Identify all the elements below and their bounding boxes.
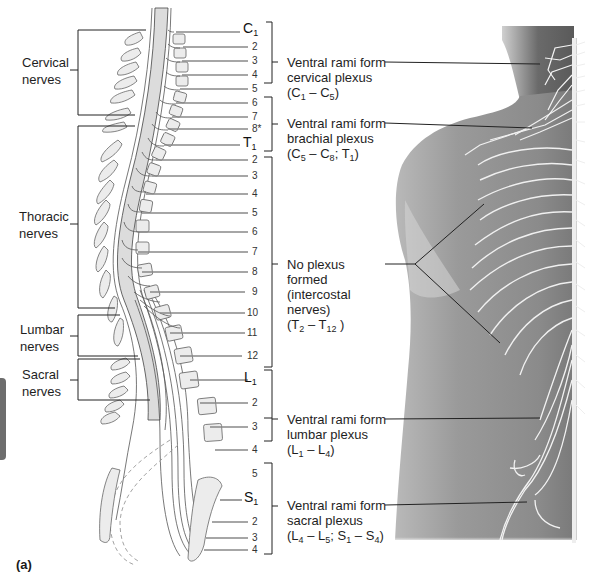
level-l1: L1 <box>244 371 257 383</box>
annotation-lumbar-plexus: Ventral rami form lumbar plexus (L1 – L4… <box>287 412 386 457</box>
right-plexus-brackets <box>264 22 278 554</box>
annotation-sacral-plexus: Ventral rami form sacral plexus (L4 – L5… <box>287 498 386 543</box>
level-t3: 3 <box>252 170 258 182</box>
level-c7: 7 <box>252 111 258 123</box>
torso-back-view <box>390 26 585 543</box>
level-t9: 9 <box>252 286 258 298</box>
level-t2: 2 <box>252 154 258 166</box>
level-t12: 12 <box>247 350 258 362</box>
level-t1: T1 <box>243 136 257 148</box>
spinal-root-stubs <box>576 42 585 414</box>
level-c1: C1 <box>243 22 258 34</box>
label-cervical-nerves: Cervicalnerves <box>22 54 69 88</box>
left-group-brackets <box>70 30 150 400</box>
level-t8: 8 <box>252 266 258 278</box>
spinal-nerves-figure: Cervicalnerves Thoracicnerves Lumbarnerv… <box>0 0 607 582</box>
annotation-cervical-plexus: Ventral rami form cervical plexus (C1 – … <box>287 55 386 100</box>
level-l2: 2 <box>252 397 258 409</box>
level-t7: 7 <box>252 246 258 258</box>
level-c5: 5 <box>252 83 258 95</box>
label-thoracic-nerves: Thoracicnerves <box>19 208 69 242</box>
annotation-no-plexus: No plexus formed (intercostal nerves) (T… <box>287 257 351 332</box>
level-t6: 6 <box>252 226 258 238</box>
level-c2: 2 <box>252 41 258 53</box>
label-lumbar-nerves: Lumbarnerves <box>20 321 64 355</box>
level-s1: S1 <box>244 491 258 503</box>
level-s4: 4 <box>252 544 258 556</box>
level-s3: 3 <box>252 532 258 544</box>
level-t10: 10 <box>247 307 258 319</box>
level-s2: 2 <box>252 516 258 528</box>
level-c3: 3 <box>252 55 258 67</box>
level-t4: 4 <box>252 188 258 200</box>
level-c8: 8* <box>252 123 261 135</box>
label-sacral-nerves: Sacralnerves <box>22 366 61 400</box>
page-edge-tab <box>0 378 6 460</box>
level-l4: 4 <box>252 444 258 456</box>
level-t5: 5 <box>252 207 258 219</box>
level-l5: 5 <box>252 468 258 480</box>
level-c4: 4 <box>252 69 258 81</box>
panel-label: (a) <box>16 557 32 572</box>
annotation-brachial-plexus: Ventral rami form brachial plexus (C5 – … <box>287 116 386 161</box>
level-c6: 6 <box>252 97 258 109</box>
level-t11: 11 <box>247 327 257 339</box>
level-l3: 3 <box>252 421 258 433</box>
